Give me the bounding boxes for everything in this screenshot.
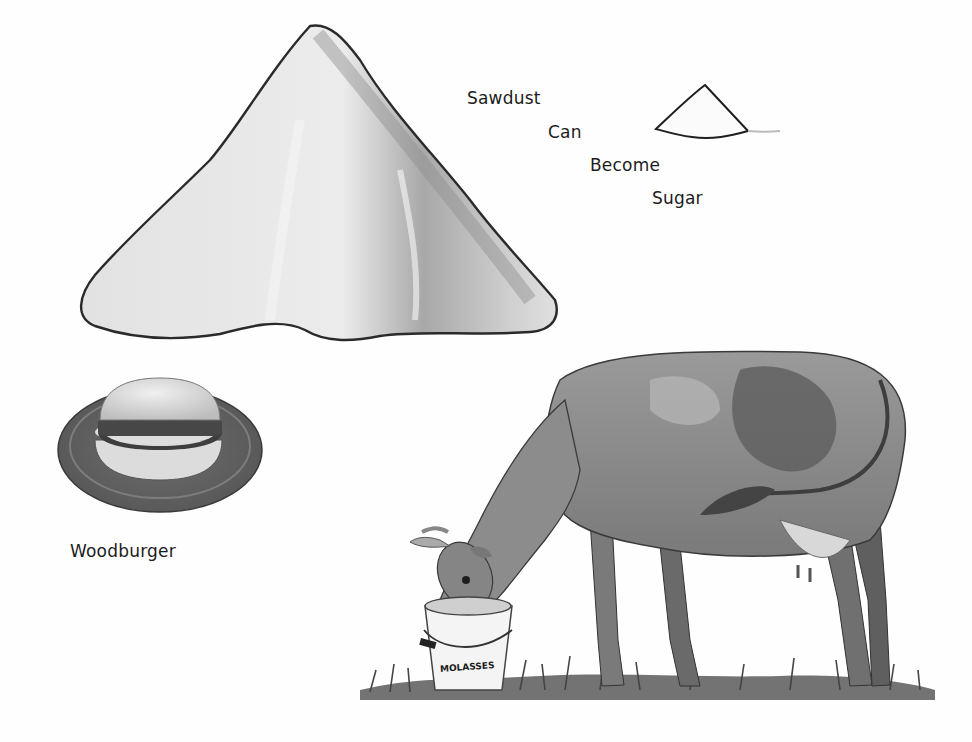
sawdust-pile-icon bbox=[81, 25, 557, 340]
woodburger-icon bbox=[58, 378, 262, 512]
molasses-bucket-icon bbox=[419, 597, 512, 690]
sugar-pile-icon bbox=[656, 85, 780, 138]
woodburger-caption: Woodburger bbox=[70, 541, 176, 561]
headline-word-become: Become bbox=[590, 155, 660, 175]
cow-icon bbox=[360, 351, 935, 700]
illustration-page: Sawdust Can Become Sugar Woodburger MOLA… bbox=[0, 0, 972, 742]
headline-word-sugar: Sugar bbox=[652, 188, 703, 208]
headline-word-can: Can bbox=[548, 122, 582, 142]
illustration-artwork bbox=[0, 0, 972, 742]
headline-word-sawdust: Sawdust bbox=[467, 88, 541, 108]
